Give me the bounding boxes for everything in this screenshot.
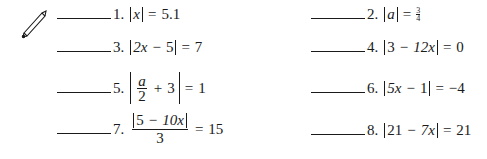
operator: + bbox=[154, 80, 162, 97]
term: 10x bbox=[162, 112, 184, 128]
abs-expression: a 2 +3 bbox=[130, 72, 179, 104]
fraction-numerator: a bbox=[137, 74, 147, 89]
operator: − bbox=[407, 122, 415, 138]
equals-sign: = bbox=[403, 6, 411, 23]
operator: − bbox=[149, 112, 157, 128]
rhs-value: −4 bbox=[449, 80, 465, 97]
term: 5 bbox=[136, 112, 144, 128]
answer-blank[interactable] bbox=[57, 92, 111, 93]
term: 3 bbox=[167, 80, 175, 97]
rhs-value: 21 bbox=[456, 122, 471, 139]
rhs-value: 15 bbox=[208, 121, 223, 138]
problem-number: 8. bbox=[367, 122, 378, 139]
fraction-denominator: 3 bbox=[156, 130, 164, 147]
abs-expression: 2x−5 bbox=[130, 40, 176, 55]
term: 21 bbox=[387, 122, 402, 138]
rhs-fraction: 3 4 bbox=[416, 7, 420, 22]
problem-number: 3. bbox=[113, 39, 124, 56]
fraction: 5−10x 3 bbox=[132, 112, 188, 147]
problem-6: 6. 5x−1 = −4 bbox=[311, 80, 465, 97]
fraction-denominator: 2 bbox=[138, 89, 146, 103]
problem-4: 4. 3−12x = 0 bbox=[311, 39, 464, 56]
fraction-numerator: 5−10x bbox=[132, 112, 188, 130]
abs-expression: 5x−1 bbox=[384, 81, 430, 96]
answer-blank[interactable] bbox=[57, 51, 111, 52]
rhs-value: 1 bbox=[198, 80, 206, 97]
problem-3: 3. 2x−5 = 7 bbox=[57, 39, 202, 56]
fraction-denominator: 4 bbox=[416, 15, 420, 22]
problem-number: 6. bbox=[367, 80, 378, 97]
abs-expression: a bbox=[384, 7, 398, 22]
equals-sign: = bbox=[148, 6, 156, 23]
rhs-value: 0 bbox=[456, 39, 464, 56]
operator: − bbox=[152, 39, 160, 55]
term: 3 bbox=[387, 39, 395, 55]
operator: − bbox=[406, 80, 414, 96]
problem-number: 5. bbox=[113, 80, 124, 97]
problem-1: 1. x = 5.1 bbox=[57, 6, 180, 23]
term: 2x bbox=[133, 39, 147, 55]
fraction: a 2 bbox=[137, 74, 147, 103]
answer-blank[interactable] bbox=[311, 92, 365, 93]
pencil-icon bbox=[18, 8, 48, 40]
problem-5: 5. a 2 +3 = 1 bbox=[57, 72, 206, 104]
problem-8: 8. 21−7x = 21 bbox=[311, 122, 471, 139]
rhs-value: 5.1 bbox=[161, 6, 180, 23]
answer-blank[interactable] bbox=[57, 18, 111, 19]
answer-blank[interactable] bbox=[311, 18, 365, 19]
answer-blank[interactable] bbox=[57, 133, 111, 134]
equals-sign: = bbox=[443, 39, 451, 56]
rhs-value: 7 bbox=[195, 39, 203, 56]
term: 1 bbox=[420, 80, 428, 96]
term: 7x bbox=[421, 122, 435, 138]
equals-sign: = bbox=[443, 122, 451, 139]
answer-blank[interactable] bbox=[311, 134, 365, 135]
operator: − bbox=[400, 39, 408, 55]
equals-sign: = bbox=[435, 80, 443, 97]
problem-2: 2. a = 3 4 bbox=[311, 6, 420, 23]
problem-7: 7. 5−10x 3 = 15 bbox=[57, 112, 223, 147]
problem-number: 4. bbox=[367, 39, 378, 56]
equals-sign: = bbox=[181, 39, 189, 56]
abs-expression: 21−7x bbox=[384, 123, 438, 138]
term: 12x bbox=[413, 39, 435, 55]
abs-expression: x bbox=[130, 7, 143, 22]
equals-sign: = bbox=[195, 121, 203, 138]
term: 5 bbox=[166, 39, 174, 55]
equals-sign: = bbox=[185, 80, 193, 97]
term: 5x bbox=[387, 80, 401, 96]
problem-number: 2. bbox=[367, 6, 378, 23]
abs-expression: 3−12x bbox=[384, 40, 438, 55]
answer-blank[interactable] bbox=[311, 51, 365, 52]
problem-number: 7. bbox=[113, 121, 124, 138]
problem-number: 1. bbox=[113, 6, 124, 23]
